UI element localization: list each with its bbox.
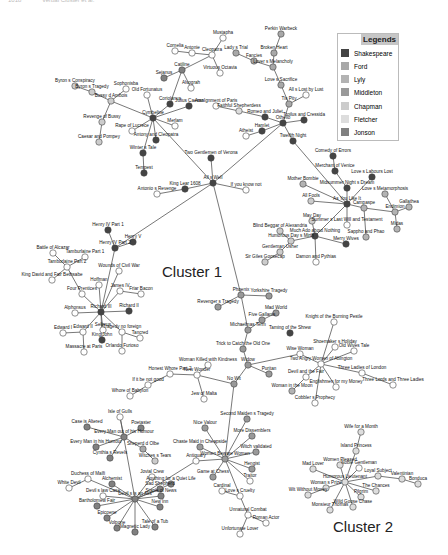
graph-node-ladytrial [233,50,239,56]
graph-node-oldfort [144,92,150,98]
node-label: Duchess of Malfi [71,471,105,476]
legend-item-middleton: Middleton [341,88,382,96]
graph-edge [147,95,153,118]
graph-node-henry4p2 [112,245,118,251]
legend-swatch [341,49,349,57]
node-label: The Chances [362,483,390,488]
graph-node-midas [394,226,400,232]
node-label: Gentleman Usher [262,244,298,249]
graph-node-woundscivil [116,268,122,274]
graph-node-lovemetamorph [382,191,388,197]
graph-node-jamesiv [117,288,123,294]
graph-node-gamechess [210,474,216,480]
node-label: Second Maiden s Tragedy [220,411,274,416]
graph-node-jewmalta [201,396,207,402]
node-label: More Dissemblers [233,428,271,433]
node-label: Witches s Tears [139,453,172,458]
node-label: Tamburlaine Part 1 [66,249,105,254]
graph-node-faithshep [236,108,242,114]
node-label: Merry Wives [333,236,359,241]
legend-item-chapman: Chapman [341,102,382,110]
graph-node-tisapity [286,101,292,107]
graph-node-perkin [278,31,284,37]
graph-node-romeojuliet [262,114,268,120]
node-label: Antiquary [186,453,206,458]
graph-node-comedyerrors [330,153,336,159]
node-label: New Wonder [184,367,211,372]
graph-node-bonduca [415,481,421,487]
node-label: Bussy d Ambois [95,93,128,98]
graph-node-fourprentices [79,291,85,297]
legend-label: Chapman [354,103,382,110]
legend-swatch [341,102,349,110]
legend-item-shakespeare: Shakespeare [341,49,392,57]
graph-node-newwonder [194,372,200,378]
node-label: Faithful Shepherdess [217,103,261,108]
graph-node-bartholomew [94,503,100,509]
node-label: Wise Woman [286,346,314,351]
node-label: Island Princess [340,443,372,448]
node-label: Love s Metamorphosis [362,186,409,191]
graph-node-englishmen [333,384,339,390]
node-label: If you know not [231,182,263,187]
node-label: Loyal Subject [364,468,392,473]
graph-node-magneticlady [132,529,138,535]
graph-node-sapphophao [363,234,369,240]
node-label: Nice Valour [193,420,217,425]
graph-edge [321,364,336,387]
legend-item-ford: Ford [341,62,367,70]
graph-node-brokenheart [271,50,277,56]
node-label: Antonio s Revenge [138,186,177,191]
node-label: Damon and Pythias [296,254,337,259]
node-label: Whore of Babylon [112,388,149,393]
graph-node-romanactor [263,520,269,526]
node-label: Henry IV Part 1 [92,222,124,227]
node-label: Mad World [265,305,288,310]
node-label: Alphonsus [64,305,86,310]
graph-node-noblegent [356,465,362,471]
node-label: Midsummer Night s Dream [320,180,375,185]
node-label: Cynthia s Revels [93,450,128,455]
node-label: Atheist [239,128,254,133]
graph-node-tamb2 [64,264,70,270]
graph-node-catiline [179,67,185,73]
node-label: Old Fortunatus [132,87,163,92]
graph-node-michaelmas [245,327,251,333]
graph-node-juliuscaesar [186,103,192,109]
graph-node-allfools [308,198,314,204]
node-label: Monsieur Thomas [312,502,349,507]
graph-node-orlando [119,348,125,354]
node-label: Wounds of Civil War [98,263,140,268]
graph-node-troilus [301,117,307,123]
graph-node-allswell [210,180,216,186]
node-label: Gallathea [399,199,419,204]
graph-edge [241,295,269,296]
graph-node-henryv [130,239,136,245]
node-label: Love s Sacrifice [265,77,298,82]
graph-node-humorouslieut [342,479,348,485]
graph-node-witchestears [152,458,158,464]
cluster-label-1: Cluster 1 [162,263,222,280]
node-label: Lady s Trial [224,45,248,50]
node-label: Noble Gentleman [341,460,377,465]
graph-node-trickcatch [240,346,246,352]
graph-node-taleoftub [152,524,158,530]
graph-node-motherbombie [300,181,306,187]
graph-node-threeladies [359,370,365,376]
node-label: Perkin Warbeck [265,26,298,31]
node-label: Bonduca [409,476,428,481]
graph-node-monsieur [327,507,333,513]
legend-swatch [341,115,349,123]
node-label: Jew of Malta [191,391,217,396]
graph-node-hamlet [259,128,265,134]
graph-node-sejanus [161,75,167,81]
node-label: Fancies [246,53,263,58]
node-label: Troilus and Cressida [283,112,325,117]
graph-node-cleopatra [209,52,215,58]
graph-node-wildgoose [350,504,356,510]
node-label: Love s Cruelty [225,488,255,493]
node-label: Mad Lover [302,461,324,466]
graph-node-winterstale [140,150,146,156]
node-label: Four Prentices [67,286,98,291]
node-label: Cymbeline [142,110,164,115]
